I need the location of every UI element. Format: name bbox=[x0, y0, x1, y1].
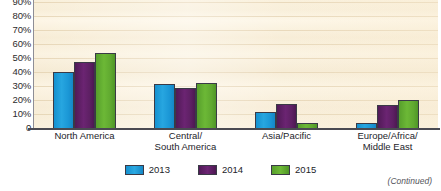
bar-series-container bbox=[34, 0, 438, 129]
bar-group bbox=[53, 0, 116, 129]
continued-note: (Continued) bbox=[388, 176, 432, 186]
legend-swatch bbox=[125, 165, 144, 175]
bar-group bbox=[154, 0, 217, 129]
bar bbox=[154, 84, 175, 129]
x-category-label: Europe/Africa/Middle East bbox=[337, 131, 438, 152]
legend-label: 2014 bbox=[222, 164, 243, 175]
bar bbox=[95, 53, 116, 129]
bar bbox=[175, 88, 196, 129]
y-tick-label: 0 bbox=[0, 123, 31, 133]
chart-legend: 201320142015 bbox=[0, 164, 441, 175]
y-axis-line bbox=[33, 0, 34, 129]
y-tick-label: 10% bbox=[0, 109, 31, 119]
grouped-bar-chart: 90%80%70%60%50%40%30%20%10%0 North Ameri… bbox=[0, 0, 441, 191]
legend-label: 2015 bbox=[295, 164, 316, 175]
legend-item-2013[interactable]: 2013 bbox=[125, 164, 170, 175]
legend-label: 2013 bbox=[149, 164, 170, 175]
bar bbox=[276, 104, 297, 129]
x-category-label: Asia/Pacific bbox=[236, 131, 337, 142]
y-tick-label: 60% bbox=[0, 39, 31, 49]
bar bbox=[398, 100, 419, 129]
bar bbox=[377, 105, 398, 129]
legend-item-2015[interactable]: 2015 bbox=[271, 164, 316, 175]
y-axis-tick-labels: 90%80%70%60%50%40%30%20%10%0 bbox=[0, 0, 31, 135]
bar bbox=[196, 83, 217, 129]
y-tick-label: 50% bbox=[0, 53, 31, 63]
x-axis-line bbox=[28, 128, 440, 130]
legend-swatch bbox=[271, 165, 290, 175]
y-tick-label: 30% bbox=[0, 81, 31, 91]
x-axis-category-labels: North AmericaCentral/South AmericaAsia/P… bbox=[34, 131, 438, 161]
y-tick-label: 90% bbox=[0, 0, 31, 7]
x-category-label: North America bbox=[34, 131, 135, 142]
x-category-label: Central/South America bbox=[135, 131, 236, 152]
bar-group bbox=[356, 0, 419, 129]
y-tick-label: 20% bbox=[0, 95, 31, 105]
y-tick-label: 70% bbox=[0, 25, 31, 35]
bar bbox=[255, 112, 276, 129]
bar-group bbox=[255, 0, 318, 129]
y-tick-label: 40% bbox=[0, 67, 31, 77]
bar bbox=[74, 62, 95, 129]
y-tick-label: 80% bbox=[0, 11, 31, 21]
legend-swatch bbox=[198, 165, 217, 175]
legend-item-2014[interactable]: 2014 bbox=[198, 164, 243, 175]
bar bbox=[53, 72, 74, 129]
